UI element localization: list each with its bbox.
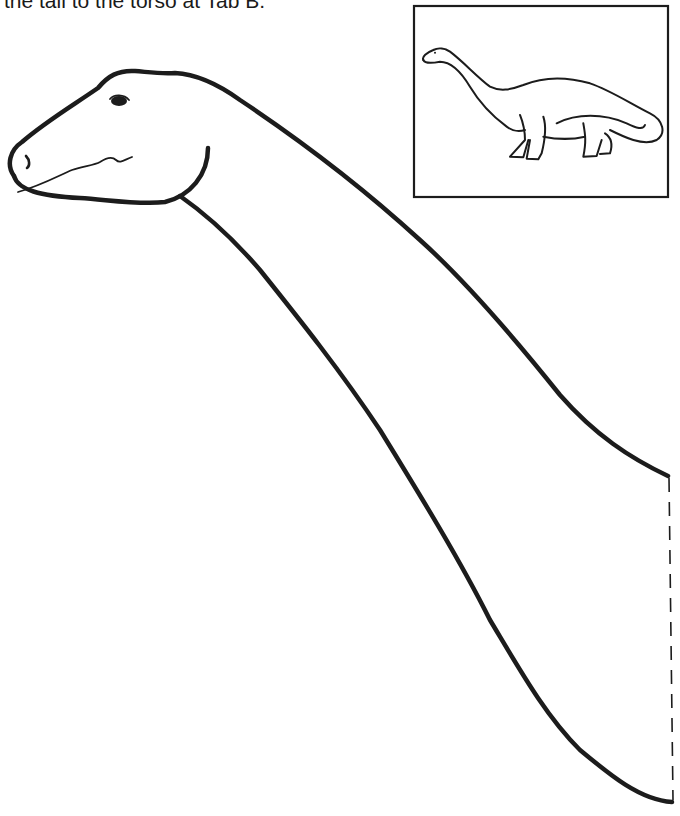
mouth-line	[18, 157, 132, 192]
nostril-icon	[26, 156, 29, 168]
dinosaur-cutout	[0, 0, 680, 816]
reference-thumbnail	[414, 6, 668, 197]
neck-bottom-outline	[180, 196, 672, 802]
fold-line	[669, 478, 673, 800]
